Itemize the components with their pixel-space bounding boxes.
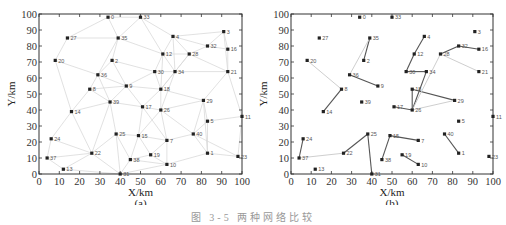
node-point-icon	[390, 16, 393, 19]
node-point-icon	[96, 73, 99, 76]
node-label: 26	[164, 107, 170, 113]
y-tick-label: 50	[27, 89, 38, 100]
y-tick-label: 80	[279, 41, 290, 52]
node-label: 0	[111, 14, 114, 20]
node-label: 3	[478, 29, 481, 35]
node-label: 37	[50, 155, 56, 161]
node-point-icon	[417, 163, 420, 166]
node-point-icon	[70, 110, 73, 113]
node-label: 28	[443, 51, 449, 57]
node-label: 28	[192, 51, 198, 57]
edge-line	[307, 60, 341, 89]
edge-line	[112, 60, 126, 86]
node-label: 25	[119, 131, 125, 137]
node-point-icon	[137, 134, 140, 137]
node-marker: 22	[342, 150, 353, 156]
node-marker: 9	[376, 83, 384, 89]
x-tick-label: 90	[216, 176, 227, 187]
node-label: 22	[95, 150, 101, 156]
node-label: 21	[231, 69, 237, 75]
node-point-icon	[206, 120, 209, 123]
node-label: 11	[245, 114, 251, 120]
node-point-icon	[159, 88, 162, 91]
node-label: 25	[371, 131, 377, 137]
node-label: 9	[381, 83, 384, 89]
node-marker: 16	[477, 46, 488, 52]
node-marker: 7	[417, 138, 425, 144]
y-tick-label: 100	[21, 9, 37, 20]
node-point-icon	[473, 30, 476, 33]
y-tick-label: 80	[27, 41, 38, 52]
node-label: 37	[302, 155, 308, 161]
node-point-icon	[362, 59, 365, 62]
node-marker: 40	[192, 131, 203, 137]
y-axis-label: Y/km	[5, 81, 17, 107]
edge-line	[55, 60, 71, 111]
y-tick-label: 10	[27, 153, 38, 164]
node-point-icon	[392, 105, 395, 108]
node-label: 5	[462, 118, 465, 124]
x-tick-label: 40	[115, 176, 126, 187]
node-marker: 35	[368, 35, 379, 41]
node-label: 27	[322, 35, 328, 41]
node-marker: 22	[90, 150, 101, 156]
node-point-icon	[425, 70, 428, 73]
node-label: 36	[101, 72, 107, 78]
edge-line	[224, 32, 228, 72]
node-label: 39	[365, 99, 371, 105]
node-label: 32	[462, 43, 468, 49]
node-marker: 30	[153, 69, 164, 75]
edge-line	[51, 112, 71, 139]
node-point-icon	[62, 168, 65, 171]
node-point-icon	[149, 153, 152, 156]
node-marker: 10	[417, 162, 428, 168]
node-marker: 24	[50, 136, 61, 142]
y-tick-label: 20	[27, 137, 38, 148]
node-label: 16	[482, 46, 488, 52]
node-label: 12	[417, 51, 423, 57]
node-point-icon	[119, 172, 122, 175]
y-tick-label: 40	[27, 105, 38, 116]
node-point-icon	[360, 100, 363, 103]
node-marker: 0	[106, 14, 114, 20]
node-label: 29	[458, 98, 464, 104]
node-label: 31	[375, 171, 381, 177]
node-point-icon	[188, 52, 191, 55]
node-marker: 19	[149, 152, 160, 158]
node-marker: 2	[362, 58, 370, 64]
node-point-icon	[370, 172, 373, 175]
node-marker: 30	[405, 69, 416, 75]
chart-panel-b: 0102030405060708090100010203040506070809…	[253, 0, 506, 205]
node-marker: 27	[66, 35, 77, 41]
node-label: 38	[385, 157, 391, 163]
nodes: 0332735433216122820230342136891829391726…	[46, 14, 251, 177]
node-label: 19	[154, 152, 160, 158]
edge-line	[141, 17, 163, 54]
node-marker: 29	[453, 98, 464, 104]
node-label: 12	[166, 51, 172, 57]
x-tick-label: 70	[176, 176, 187, 187]
node-label: 35	[121, 35, 127, 41]
node-marker: 15	[388, 133, 399, 139]
node-point-icon	[322, 110, 325, 113]
node-label: 10	[421, 162, 427, 168]
node-label: 4	[176, 34, 179, 40]
node-marker: 14	[70, 109, 81, 115]
node-point-icon	[302, 137, 305, 140]
node-point-icon	[161, 52, 164, 55]
node-label: 17	[146, 104, 152, 110]
node-point-icon	[141, 105, 144, 108]
node-marker: 17	[392, 104, 403, 110]
node-label: 39	[113, 99, 119, 105]
node-point-icon	[88, 88, 91, 91]
node-marker: 20	[306, 58, 317, 64]
edge-line	[412, 54, 440, 110]
chart-panel-a: 0102030405060708090100010203040506070809…	[0, 0, 253, 205]
x-tick-label: 20	[326, 176, 337, 187]
node-label: 2	[367, 58, 370, 64]
edge-line	[203, 72, 227, 101]
edges	[299, 36, 479, 174]
node-label: 36	[353, 72, 359, 78]
node-point-icon	[366, 132, 369, 135]
node-marker: 28	[188, 51, 199, 57]
